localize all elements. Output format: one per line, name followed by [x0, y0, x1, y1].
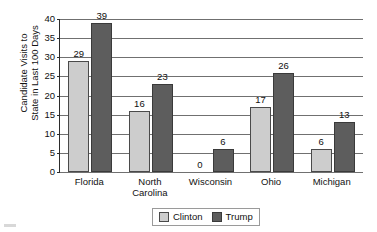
bar-trump — [152, 84, 173, 172]
bar-value-label: 26 — [273, 61, 294, 71]
bar-value-label: 29 — [68, 49, 89, 59]
y-axis-tick-label: 40 — [44, 14, 55, 24]
bar-trump — [273, 73, 294, 172]
bar-value-label: 39 — [91, 11, 112, 21]
bar-value-label: 6 — [213, 137, 234, 147]
bar-clinton — [311, 149, 332, 172]
bars-layer: 29391623061726613 — [60, 19, 363, 172]
bar-value-label: 16 — [129, 99, 150, 109]
y-axis-tick-label: 20 — [44, 91, 55, 101]
bar-value-label: 13 — [334, 110, 355, 120]
y-axis-tick-label: 15 — [44, 110, 55, 120]
y-axis-tick-label: 25 — [44, 71, 55, 81]
gridline — [60, 172, 363, 173]
y-axis-tick-mark — [57, 172, 60, 173]
bar-clinton — [68, 61, 89, 172]
legend-label-clinton: Clinton — [173, 212, 203, 222]
scan-artifact — [4, 224, 16, 227]
legend-item-clinton: Clinton — [159, 212, 203, 222]
x-axis-label: Florida — [59, 176, 120, 187]
x-axis-label: Wisconsin — [180, 176, 241, 187]
legend-swatch-clinton-icon — [159, 212, 169, 222]
y-axis-tick-label: 0 — [50, 167, 55, 177]
x-axis-label: Michigan — [301, 176, 362, 187]
bar-chart: Candidate Visits to State in Last 100 Da… — [0, 0, 377, 232]
y-axis-tick-label: 30 — [44, 52, 55, 62]
legend-item-trump: Trump — [212, 212, 253, 222]
plot-area: 0510152025303540 29391623061726613 — [59, 19, 363, 173]
bar-trump — [334, 122, 355, 172]
bar-value-label: 17 — [250, 95, 271, 105]
y-axis-title-line-2: State in Last 100 Days — [29, 25, 40, 121]
bar-group: 1726 — [250, 19, 294, 172]
bar-clinton — [250, 107, 271, 172]
bar-group: 613 — [311, 19, 355, 172]
bar-clinton — [129, 111, 150, 172]
legend: Clinton Trump — [152, 208, 260, 226]
legend-label-trump: Trump — [226, 212, 253, 222]
y-axis-tick-label: 35 — [44, 33, 55, 43]
y-axis-title-line-1: Candidate Visits to — [18, 33, 29, 112]
y-axis-tick-label: 10 — [44, 129, 55, 139]
x-axis-label: North Carolina — [120, 176, 181, 198]
bar-value-label: 6 — [311, 137, 332, 147]
bar-group: 06 — [190, 19, 234, 172]
bar-group: 2939 — [68, 19, 112, 172]
y-axis-title: Candidate Visits to State in Last 100 Da… — [14, 0, 44, 158]
bar-trump — [213, 149, 234, 172]
bar-trump — [91, 23, 112, 172]
x-axis-label: Ohio — [241, 176, 302, 187]
bar-value-label: 0 — [190, 160, 211, 170]
bar-group: 1623 — [129, 19, 173, 172]
legend-swatch-trump-icon — [212, 212, 222, 222]
y-axis-tick-label: 5 — [50, 148, 55, 158]
bar-value-label: 23 — [152, 72, 173, 82]
